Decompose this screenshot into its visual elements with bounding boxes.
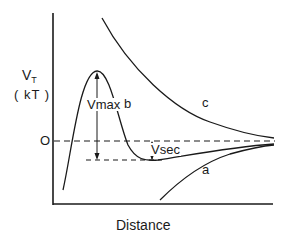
- curve-a-label: a: [202, 163, 209, 176]
- x-axis-label: Distance: [116, 218, 170, 232]
- vsec-label: Vsec: [150, 143, 181, 156]
- vmax-arrow-head-top: [95, 72, 100, 79]
- y-axis-unit: ( kT ): [14, 88, 50, 101]
- curve-b: [63, 71, 274, 190]
- y-axis-label-sub: T: [31, 75, 37, 85]
- curve-c-label: c: [202, 96, 209, 109]
- curve-c: [102, 18, 274, 138]
- diagram-canvas: [0, 0, 290, 243]
- zero-tick-label: O: [40, 134, 50, 147]
- y-axis-label: VT: [22, 68, 37, 82]
- curve-b-label: b: [124, 97, 131, 110]
- y-axis-label-main: V: [22, 67, 31, 83]
- vmax-arrow-head-bottom: [95, 153, 100, 160]
- vmax-label: Vmax: [86, 98, 121, 111]
